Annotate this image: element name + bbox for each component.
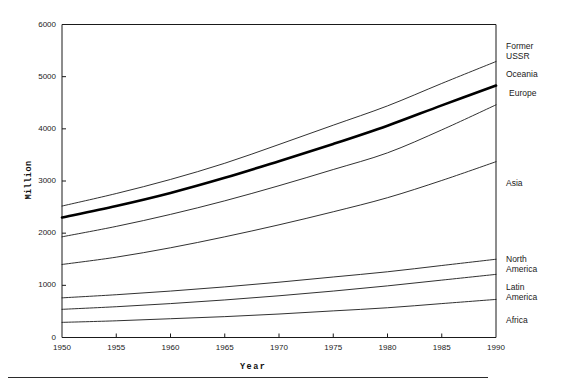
y-axis-tick-label: 6000 [14, 20, 56, 29]
footer-divider [8, 377, 488, 378]
series-label-former-ussr: Former USSR [506, 41, 533, 61]
series-label-africa: Africa [506, 315, 528, 325]
series-label-former-ussr-line2: USSR [506, 51, 530, 61]
x-axis-tick-label: 1975 [313, 343, 353, 352]
y-axis-tick-label: 4000 [14, 124, 56, 133]
series-line [62, 299, 496, 322]
series-label-oceania: Oceania [506, 69, 538, 79]
chart-plot-area [0, 0, 562, 392]
series-label-europe-text: Europe [509, 88, 536, 98]
series-label-africa-text: Africa [506, 315, 528, 325]
y-axis-tick-label: 0 [14, 333, 56, 342]
series-line [62, 162, 496, 265]
x-axis-tick-label: 1980 [368, 343, 408, 352]
y-axis-tick-label: 1000 [14, 280, 56, 289]
y-axis-tick-label: 5000 [14, 72, 56, 81]
series-line [62, 105, 496, 237]
series-label-oceania-text: Oceania [506, 69, 538, 79]
series-label-latin-america: Latin America [506, 282, 537, 302]
y-axis-tick-label: 3000 [14, 176, 56, 185]
population-line-chart: Million Year Former USSR Oceania Europe … [0, 0, 562, 392]
series-label-former-ussr-line1: Former [506, 41, 533, 51]
x-axis-title: Year [240, 362, 266, 372]
series-label-north-america: North America [506, 254, 537, 274]
x-axis-tick-label: 1990 [476, 343, 516, 352]
x-axis-tick-label: 1950 [42, 343, 82, 352]
x-axis-tick-label: 1960 [151, 343, 191, 352]
x-axis-tick-label: 1970 [259, 343, 299, 352]
series-label-asia-text: Asia [506, 178, 523, 188]
series-label-north-america-line2: America [506, 264, 537, 274]
y-axis-tick-label: 2000 [14, 228, 56, 237]
series-label-latin-america-line1: Latin [506, 282, 524, 292]
x-axis-tick-label: 1955 [96, 343, 136, 352]
series-line [62, 86, 496, 218]
series-label-latin-america-line2: America [506, 292, 537, 302]
x-axis-tick-label: 1965 [205, 343, 245, 352]
series-line [62, 259, 496, 298]
series-label-north-america-line1: North [506, 254, 527, 264]
series-label-asia: Asia [506, 178, 523, 188]
x-axis-tick-label: 1985 [422, 343, 462, 352]
series-label-europe: Europe [509, 88, 536, 98]
